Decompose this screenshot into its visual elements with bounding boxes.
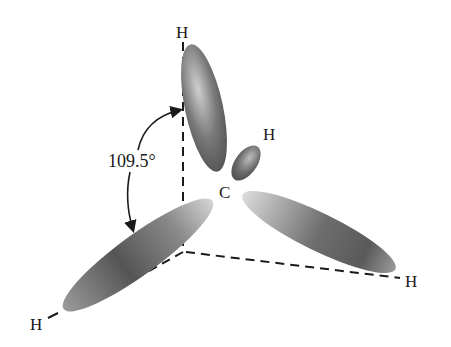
orbital-lobe-right <box>234 178 403 287</box>
orbital-lobe-back <box>226 140 267 185</box>
atom-label-h-top: H <box>176 23 188 42</box>
dashed-bottom-left-stub <box>48 313 58 318</box>
methane-orbital-diagram: 109.5° C H H H H <box>0 0 451 347</box>
orbital-lobe-left <box>52 185 224 326</box>
atom-label-h-back: H <box>263 125 275 144</box>
bond-angle-label: 109.5° <box>108 151 156 171</box>
atom-label-h-right: H <box>405 272 417 291</box>
atom-label-h-left: H <box>30 315 42 334</box>
angle-arc-upper <box>138 110 180 150</box>
orbital-lobe-top <box>172 40 236 175</box>
center-atom-label: C <box>219 183 230 202</box>
angle-arc-lower <box>128 172 133 230</box>
